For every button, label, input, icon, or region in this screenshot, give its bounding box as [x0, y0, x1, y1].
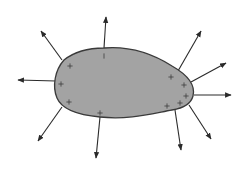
- closed-surface-diagram: [0, 0, 248, 169]
